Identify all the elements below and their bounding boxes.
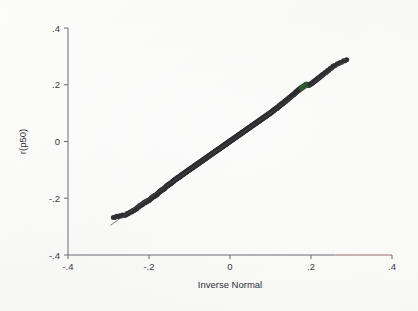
x-tick-label: -.2: [143, 261, 154, 272]
qq-plot-chart: -.4-.20.2.4 -.4-.20.2.4 Inverse Normal r…: [0, 0, 418, 311]
y-axis-ticks: -.4-.20.2.4: [49, 23, 68, 261]
x-tick-label: -.4: [62, 261, 73, 272]
reference-line: [111, 61, 346, 226]
x-axis-ticks: -.4-.20.2.4: [62, 255, 396, 272]
x-tick-label: 0: [227, 261, 232, 272]
figure-page: -.4-.20.2.4 -.4-.20.2.4 Inverse Normal r…: [0, 0, 418, 311]
y-tick-label: 0: [55, 136, 60, 147]
y-tick-label: .2: [52, 79, 60, 90]
y-tick-label: -.4: [49, 250, 60, 261]
x-tick-label: .2: [307, 261, 315, 272]
x-tick-label: .4: [388, 261, 396, 272]
scatter-points: [111, 57, 349, 220]
y-tick-label: -.2: [49, 193, 60, 204]
scatter-point: [344, 57, 349, 62]
y-axis-title: r(p50): [17, 129, 28, 154]
x-axis-title: Inverse Normal: [198, 279, 262, 290]
y-tick-label: .4: [52, 23, 60, 34]
